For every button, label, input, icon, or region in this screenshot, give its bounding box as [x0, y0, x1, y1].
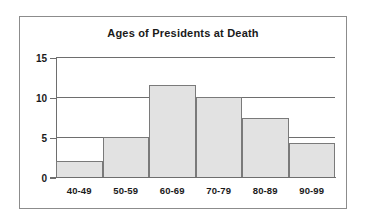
- y-tick-label-0: 0: [41, 173, 47, 184]
- bar-70-79[interactable]: [196, 97, 243, 177]
- x-tick-label-40-49: 40-49: [56, 185, 103, 196]
- x-tick-label-80-89: 80-89: [242, 185, 289, 196]
- bar-50-59[interactable]: [103, 137, 150, 177]
- chart-title: Ages of Presidents at Death: [19, 27, 347, 39]
- x-axis-line: [50, 177, 336, 178]
- bar-40-49[interactable]: [56, 161, 103, 177]
- x-tick-label-60-69: 60-69: [149, 185, 196, 196]
- x-tick-label-70-79: 70-79: [196, 185, 243, 196]
- histogram-figure: Ages of Presidents at Death 15 10 5 0: [0, 0, 368, 221]
- bar-series: [56, 57, 335, 177]
- x-tick-label-90-99: 90-99: [289, 185, 336, 196]
- x-tick-label-50-59: 50-59: [103, 185, 150, 196]
- bar-60-69[interactable]: [149, 85, 196, 177]
- y-tick-label-10: 10: [36, 93, 47, 104]
- y-tick-label-15: 15: [36, 53, 47, 64]
- y-tick-0: [50, 178, 56, 179]
- bar-90-99[interactable]: [289, 143, 336, 177]
- y-tick-label-5: 5: [41, 133, 47, 144]
- x-axis-labels: 40-49 50-59 60-69 70-79 80-89 90-99: [56, 185, 335, 196]
- bar-80-89[interactable]: [242, 118, 289, 177]
- plot-area: 15 10 5 0: [56, 57, 335, 177]
